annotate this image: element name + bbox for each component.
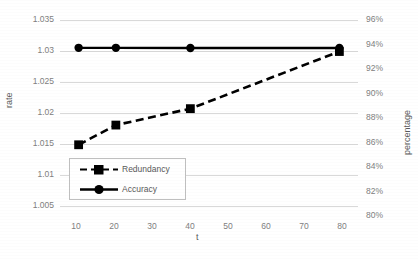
solid-circle-key bbox=[78, 179, 120, 200]
legend-label: Redundancy bbox=[122, 164, 170, 175]
series-layer bbox=[0, 0, 418, 259]
series-redundancy bbox=[74, 47, 344, 149]
dashed-square-key bbox=[78, 159, 120, 180]
legend-item-redundancy: Redundancy bbox=[70, 159, 185, 180]
series-accuracy bbox=[74, 44, 343, 53]
legend-item-accuracy: Accuracy bbox=[70, 179, 185, 200]
legend-label: Accuracy bbox=[122, 184, 157, 195]
chart-legend: Redundancy Accuracy bbox=[69, 158, 186, 200]
chart-container: 1.035 1.03 1.025 1.02 1.015 1.01 1.005 9… bbox=[0, 0, 418, 259]
